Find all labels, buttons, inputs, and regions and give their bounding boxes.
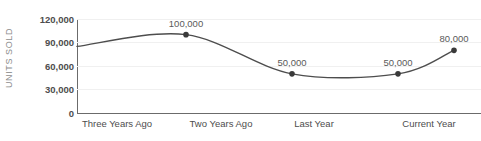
x-label-two-years-ago: Two Years Ago bbox=[190, 119, 253, 129]
y-axis-title-text: UNITS SOLD bbox=[4, 27, 14, 87]
y-tick-label-30000: 30,000 bbox=[18, 85, 74, 95]
data-point-marker bbox=[395, 71, 401, 77]
y-tick-label-0: 0 bbox=[18, 109, 74, 119]
data-point-marker bbox=[183, 32, 189, 38]
y-tick-label-90000: 90,000 bbox=[18, 38, 74, 48]
units-sold-line-chart: UNITS SOLD 120,000 90,000 60,000 30,000 … bbox=[0, 0, 481, 141]
x-axis-category-labels: Three Years Ago Two Years Ago Last Year … bbox=[0, 119, 481, 135]
data-point-label: 80,000 bbox=[439, 34, 468, 44]
x-label-current-year: Current Year bbox=[402, 119, 455, 129]
y-tick-label-120000: 120,000 bbox=[18, 15, 74, 25]
data-point-marker bbox=[289, 71, 295, 77]
x-label-three-years-ago: Three Years Ago bbox=[82, 119, 152, 129]
x-label-last-year: Last Year bbox=[294, 119, 334, 129]
plot-area: 100,00050,00050,00080,000 bbox=[77, 19, 481, 113]
data-point-label: 50,000 bbox=[277, 58, 306, 68]
y-tick-label-60000: 60,000 bbox=[18, 62, 74, 72]
x-axis-line bbox=[77, 113, 481, 114]
data-point-label: 100,000 bbox=[169, 19, 203, 29]
y-axis-title: UNITS SOLD bbox=[0, 0, 18, 115]
data-point-marker bbox=[451, 48, 457, 54]
data-point-label: 50,000 bbox=[383, 58, 412, 68]
